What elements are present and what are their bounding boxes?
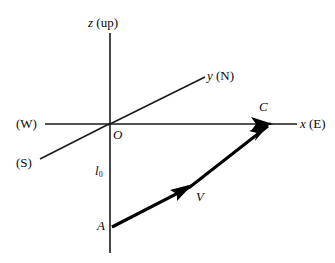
altitude-label: l0 (95, 164, 103, 179)
y-axis-annotation: (N) (216, 68, 234, 83)
point-a-label: A (97, 219, 105, 232)
diagram-figure: z (up) y (N) x (E) (W) (S) O l0 A V C (0, 0, 335, 263)
south-label: (S) (16, 156, 32, 169)
y-axis-label: y (N) (207, 69, 234, 82)
diagram-canvas (0, 0, 335, 263)
velocity-vector-line (112, 126, 268, 227)
west-label: (W) (16, 117, 37, 130)
velocity-vector-label: V (196, 190, 204, 203)
z-axis-annotation: (up) (96, 15, 118, 30)
velocity-vector-mid-arrowhead (170, 184, 193, 201)
y-axis-line (108, 77, 205, 125)
y-negative-axis-line (40, 124, 109, 159)
x-axis-label: x (E) (300, 117, 326, 130)
point-c-label: C (259, 100, 268, 113)
altitude-subscript: 0 (99, 170, 103, 179)
x-axis-annotation: (E) (309, 116, 326, 131)
origin-label: O (113, 128, 122, 141)
z-axis-label: z (up) (88, 16, 118, 29)
